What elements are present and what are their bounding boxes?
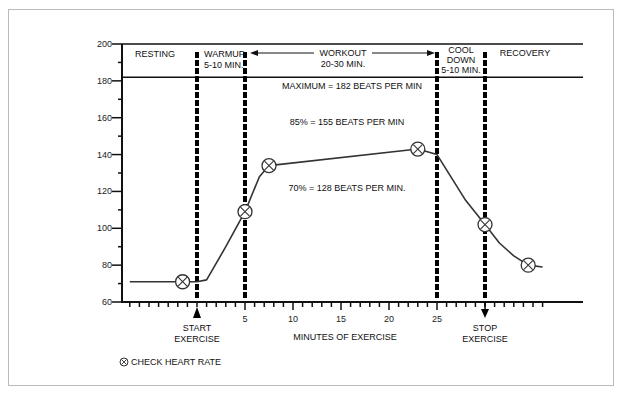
x-tick-label: 5 [242,314,247,324]
y-tick-label: 120 [97,186,112,196]
x-tick-label: 20 [384,314,394,324]
y-tick-label: 160 [97,113,112,123]
heart-rate-chart: 2001801601401201008060510152025RESTINGWA… [0,0,622,408]
y-tick-label: 80 [102,260,112,270]
x-axis-label: MINUTES OF EXERCISE [293,332,397,342]
stop-arrow-icon [481,309,489,318]
legend-label: CHECK HEART RATE [131,357,221,367]
phase-label-cooldown: COOL [448,45,474,55]
x-tick-label: 15 [336,314,346,324]
70-percent-label: 70% = 128 BEATS PER MIN. [288,183,405,193]
y-tick-label: 140 [97,150,112,160]
start-exercise-label: EXERCISE [174,334,220,344]
phase-label-cooldown-2: DOWN [447,55,476,65]
x-tick-label: 25 [432,314,442,324]
phase-label-workout-duration: 20-30 MIN. [321,59,366,69]
phase-label-resting: RESTING [135,49,175,59]
heart-rate-curve [130,149,543,282]
phase-label-cooldown-duration: 5-10 MIN. [441,65,481,75]
phase-label-warmup-duration: 5-10 MIN. [204,60,244,70]
y-tick-label: 180 [97,76,112,86]
start-label: START [183,323,212,333]
x-tick-label: 10 [288,314,298,324]
stop-exercise-label: EXERCISE [462,334,508,344]
y-tick-label: 60 [102,297,112,307]
arrow-right-icon [427,50,435,56]
phase-label-warmup: WARMUP [204,49,245,59]
max-heart-rate-label: MAXIMUM = 182 BEATS PER MIN [282,81,422,91]
stop-label: STOP [473,323,497,333]
85-percent-label: 85% = 155 BEATS PER MIN [290,117,405,127]
phase-label-workout: WORKOUT [320,48,367,58]
phase-label-recovery: RECOVERY [500,48,550,58]
arrow-left-icon [250,50,258,56]
start-arrow-icon [193,307,201,318]
y-tick-label: 100 [97,223,112,233]
y-tick-label: 200 [97,39,112,49]
